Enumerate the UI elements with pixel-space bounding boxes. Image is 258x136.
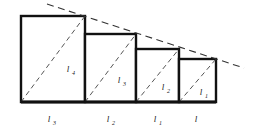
- rect-3-inner-label-subscript: 2: [167, 88, 170, 94]
- rect-4-inner-label-subscript: 1: [205, 93, 208, 99]
- rect-2-inner-label-subscript: 3: [122, 81, 126, 87]
- bottom-label-2-subscript: 2: [112, 120, 115, 126]
- bottom-label-3: l: [154, 114, 157, 124]
- bottom-label-1-subscript: 3: [52, 120, 56, 126]
- bottom-labels-group: l 3 l 2 l 1 l: [48, 114, 198, 126]
- bottom-label-3-subscript: 1: [159, 120, 162, 126]
- rect-4-group: l 1: [179, 59, 216, 102]
- bottom-label-2: l: [107, 114, 110, 124]
- geometry-figure: l 4 l 3 l 2 l 1 l: [0, 0, 258, 136]
- rect-1-group: l 4: [21, 16, 85, 102]
- bottom-label-1: l: [48, 114, 51, 124]
- figure-canvas: l 4 l 3 l 2 l 1 l: [0, 0, 258, 136]
- rect-1-inner-label-subscript: 4: [72, 70, 75, 76]
- rect-3-group: l 2: [136, 49, 179, 102]
- bottom-label-4: l: [195, 114, 198, 124]
- rect-2-group: l 3: [85, 34, 136, 102]
